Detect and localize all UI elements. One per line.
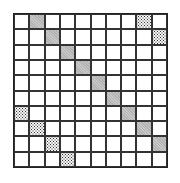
grid-cell (75, 29, 90, 44)
grid-cell (136, 152, 151, 167)
grid-cell (45, 45, 60, 60)
grid-cell (60, 29, 75, 44)
grid-cell (121, 75, 136, 90)
grid-cell (121, 152, 136, 167)
grid-cell (75, 45, 90, 60)
grid-cell (91, 136, 106, 151)
grid-cell (106, 106, 121, 121)
grid-cell (45, 152, 60, 167)
grid-cell (91, 106, 106, 121)
grid-cell (106, 136, 121, 151)
grid-cell (136, 136, 151, 151)
grid-diagram (13, 13, 168, 168)
grid-cell-dotted (29, 121, 44, 136)
grid-cell (29, 29, 44, 44)
grid-cell (75, 152, 90, 167)
grid-cell (91, 152, 106, 167)
grid-cell (106, 29, 121, 44)
grid-cell (60, 121, 75, 136)
grid-cell (152, 45, 167, 60)
grid-cell (106, 60, 121, 75)
grid-cell (29, 136, 44, 151)
grid-cell (60, 14, 75, 29)
grid-cell (60, 75, 75, 90)
grid-cell (45, 91, 60, 106)
grid-cell (29, 75, 44, 90)
grid-cell (121, 14, 136, 29)
grid-cell (136, 106, 151, 121)
grid-cell (14, 152, 29, 167)
grid-cell (152, 152, 167, 167)
grid-cell-grey (75, 60, 90, 75)
grid-cell (14, 60, 29, 75)
grid-cell (75, 75, 90, 90)
grid-cell (152, 106, 167, 121)
grid-cell-grey (152, 136, 167, 151)
grid-cell (152, 75, 167, 90)
grid-cell (91, 91, 106, 106)
grid-cell (91, 60, 106, 75)
grid-cell (106, 14, 121, 29)
grid-cell-dotted (136, 14, 151, 29)
grid-cell-dotted (60, 152, 75, 167)
grid-cell (75, 14, 90, 29)
grid-cell (14, 29, 29, 44)
grid-cell (121, 45, 136, 60)
grid-cell (121, 91, 136, 106)
grid-cell (29, 152, 44, 167)
grid-cell (91, 45, 106, 60)
grid-cell (136, 45, 151, 60)
grid-cell (29, 106, 44, 121)
grid-cell (106, 45, 121, 60)
grid-cell (121, 121, 136, 136)
grid-cell (60, 60, 75, 75)
grid-cell (91, 14, 106, 29)
grid-cell (60, 136, 75, 151)
grid-cell-grey (60, 45, 75, 60)
grid-cell-grey (45, 29, 60, 44)
grid-cell (14, 75, 29, 90)
grid-cell (45, 121, 60, 136)
grid-cell (136, 29, 151, 44)
grid-cell (60, 91, 75, 106)
grid-cell (136, 91, 151, 106)
grid-cell (14, 121, 29, 136)
grid-cell-grey (91, 75, 106, 90)
grid-cell (14, 91, 29, 106)
grid-cell (45, 14, 60, 29)
grid-cell-grey (106, 91, 121, 106)
grid-cell (14, 136, 29, 151)
grid-cell (75, 91, 90, 106)
grid-cell (45, 106, 60, 121)
grid-cell (121, 136, 136, 151)
grid-cell (75, 121, 90, 136)
grid-cell (106, 121, 121, 136)
grid-cell (121, 29, 136, 44)
grid-cell-dotted (45, 136, 60, 151)
grid-cell (91, 29, 106, 44)
grid-cell (60, 106, 75, 121)
grid-cell-dotted (14, 106, 29, 121)
grid-cell-grey (29, 14, 44, 29)
grid-cell (136, 60, 151, 75)
grid-cell (14, 45, 29, 60)
grid-cell (152, 60, 167, 75)
grid-cell (91, 121, 106, 136)
grid-cell (121, 60, 136, 75)
grid-cell (14, 14, 29, 29)
grid-cell (75, 106, 90, 121)
grid-cell (136, 75, 151, 90)
grid-cell (152, 14, 167, 29)
grid-cell-grey (121, 106, 136, 121)
grid-cell (106, 75, 121, 90)
grid-cell (29, 60, 44, 75)
grid-cell (152, 121, 167, 136)
grid-cell (106, 152, 121, 167)
grid-cell (29, 91, 44, 106)
grid-cell (45, 75, 60, 90)
grid-cell (152, 91, 167, 106)
grid-cell (45, 60, 60, 75)
grid-cell-grey (136, 121, 151, 136)
grid-cell-dotted (152, 29, 167, 44)
grid-cell (75, 136, 90, 151)
